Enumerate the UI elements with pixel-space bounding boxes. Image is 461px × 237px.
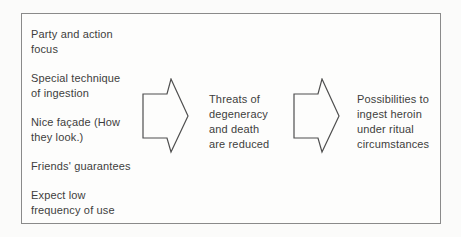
right-label: Possibilities to ingest heroin under rit… (357, 92, 461, 152)
middle-label: Threats of degeneracy and death are redu… (209, 92, 304, 152)
list-item-party-action-focus: Party and action focus (31, 27, 166, 57)
right-block-arrow-icon (140, 78, 190, 154)
right-block-arrow-icon (291, 78, 341, 154)
list-item-friends-guarantees: Friends' guarantees (31, 159, 166, 174)
figure-frame: Party and action focus Special technique… (21, 13, 441, 224)
figure-canvas: Party and action focus Special technique… (0, 0, 461, 237)
list-item-expect-low-frequency: Expect low frequency of use (31, 188, 166, 218)
